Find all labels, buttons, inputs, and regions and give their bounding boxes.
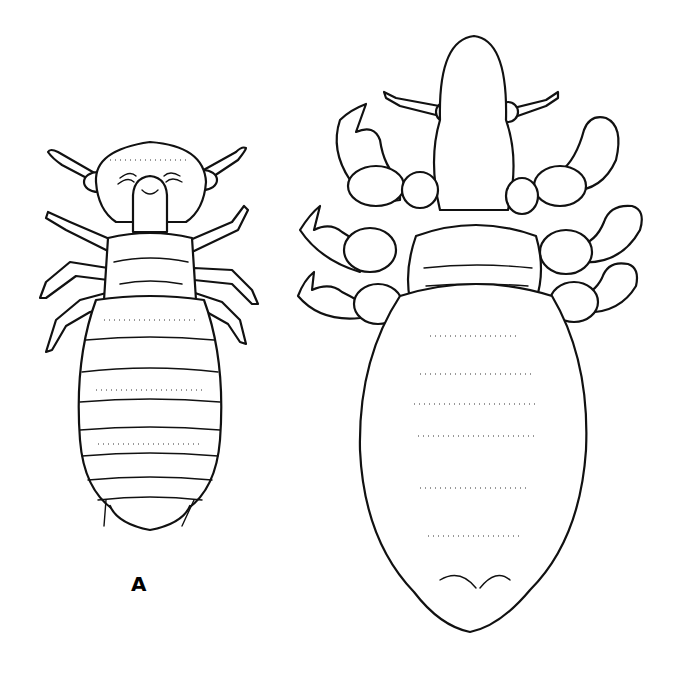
louse-nymph-illustration bbox=[40, 142, 258, 530]
crab-louse-adult-illustration bbox=[298, 36, 642, 632]
panel-label-a: A bbox=[131, 572, 146, 596]
figure-canvas bbox=[0, 0, 674, 673]
